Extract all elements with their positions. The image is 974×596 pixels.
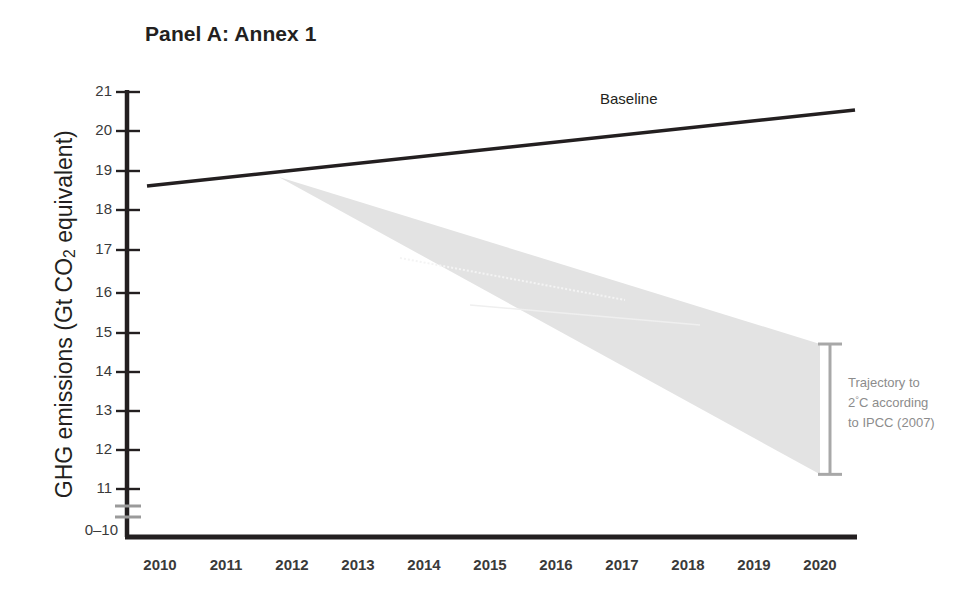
y-tick-20: 20 (56, 121, 112, 138)
x-tick-2016: 2016 (521, 556, 591, 573)
x-tick-2012: 2012 (257, 556, 327, 573)
x-tick-2014: 2014 (389, 556, 459, 573)
trajectory-band-area (279, 177, 820, 474)
y-axis-tick-labels: 21 20 19 18 17 16 15 14 13 12 11 0–10 (56, 0, 112, 596)
x-tick-2019: 2019 (719, 556, 789, 573)
y-tick-16: 16 (56, 283, 112, 300)
y-tick-15: 15 (56, 323, 112, 340)
y-tick-19: 19 (56, 161, 112, 178)
x-tick-2020: 2020 (785, 556, 855, 573)
x-tick-2013: 2013 (323, 556, 393, 573)
y-tick-13: 13 (56, 401, 112, 418)
trajectory-annotation: Trajectory to 2°C according to IPCC (200… (848, 373, 970, 432)
x-tick-2010: 2010 (125, 556, 195, 573)
trajectory-annotation-line-2: 2°C according (848, 393, 970, 413)
y-tick-11: 11 (56, 479, 112, 496)
plot-area (0, 0, 974, 596)
y-tick-18: 18 (56, 200, 112, 217)
x-tick-2011: 2011 (191, 556, 261, 573)
y-tick-17: 17 (56, 240, 112, 257)
x-tick-2017: 2017 (587, 556, 657, 573)
y-tick-14: 14 (56, 362, 112, 379)
y-tick-12: 12 (56, 440, 112, 457)
baseline-series-label: Baseline (600, 90, 658, 107)
x-tick-2018: 2018 (653, 556, 723, 573)
chart-figure: Panel A: Annex 1 GHG emissions (Gt CO2 e… (0, 0, 974, 596)
baseline-series-line (147, 110, 855, 186)
trajectory-bracket (818, 344, 842, 474)
y-tick-break-0-10: 0–10 (56, 521, 118, 538)
trajectory-annotation-line-3: to IPCC (2007) (848, 413, 970, 433)
trajectory-annotation-line-1: Trajectory to (848, 373, 970, 393)
y-tick-21: 21 (56, 82, 112, 99)
trajectory-annotation-line-2-text: C according (859, 395, 928, 410)
x-tick-2015: 2015 (455, 556, 525, 573)
